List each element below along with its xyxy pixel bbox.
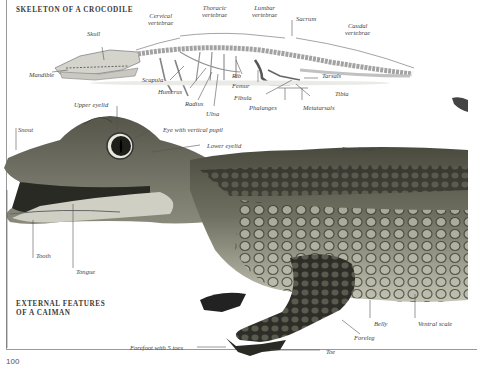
label-ulna: Ulna	[206, 110, 219, 117]
label-skull: Skull	[87, 30, 100, 37]
partial-foot	[452, 97, 468, 112]
label-cervical-vertebrae: Cervical vertebrae	[148, 12, 173, 26]
label-tooth: Tooth	[36, 252, 51, 259]
label-fibula: Fibula	[234, 94, 252, 101]
label-tibia: Tibia	[335, 90, 349, 97]
caiman-title: EXTERNAL FEATURES OF A CAIMAN	[16, 300, 105, 317]
label-eye-with-vertical-pupil: Eye with vertical pupil	[163, 126, 223, 133]
label-metatarsals: Metatarsals	[303, 104, 335, 111]
label-scapula: Scapula	[142, 76, 163, 83]
label-belly: Belly	[374, 320, 388, 327]
label-caudal-vertebrae: Caudal vertebrae	[345, 22, 370, 36]
page-number: 100	[6, 357, 19, 365]
label-lower-eyelid: Lower eyelid	[207, 142, 241, 149]
label-forefoot: Forefoot with 5 toes	[130, 344, 183, 351]
label-dorsal-scale: Dorsal scale	[342, 145, 376, 152]
label-thoracic-vertebrae: Thoracic vertebrae	[202, 4, 227, 18]
skeleton-title: SKELETON OF A CROCODILE	[16, 6, 133, 15]
label-tarsals: Tarsals	[322, 72, 341, 79]
label-sacrum: Sacrum	[296, 15, 316, 22]
label-ventral-scale: Ventral scale	[418, 320, 452, 327]
label-mandible: Mandible	[29, 71, 54, 78]
label-toe: Toe	[326, 348, 335, 355]
label-foreleg: Foreleg	[354, 334, 375, 341]
label-rib: Rib	[232, 72, 241, 79]
label-radius: Radius	[185, 100, 203, 107]
label-femur: Femur	[232, 82, 250, 89]
label-snout: Snout	[18, 126, 33, 133]
label-upper-eyelid: Upper eyelid	[74, 101, 108, 108]
label-phalanges: Phalanges	[249, 104, 277, 111]
label-humerus: Humerus	[158, 88, 182, 95]
label-tongue: Tongue	[76, 268, 95, 275]
label-lumbar-vertebrae: Lumbar vertebrae	[252, 4, 277, 18]
